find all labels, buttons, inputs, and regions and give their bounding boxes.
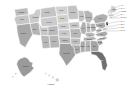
state-label-FL: Fla. (100, 59, 104, 62)
state-label-NE: Neb. (61, 25, 66, 28)
state-label-AK: Alaska (21, 65, 29, 68)
state-label-MT: Mont. (44, 11, 50, 14)
state-label-TX: Texas (63, 52, 70, 55)
state-label-NV: Nev. (33, 28, 38, 31)
state-label-UT: Utah (42, 29, 48, 32)
state-label-AZ: Ariz. (43, 41, 48, 44)
state-label-MO: Mo. (73, 32, 77, 35)
state-label-KY: Ky. (89, 34, 93, 37)
state-label-VA: Va. (100, 33, 104, 36)
state-label-SC: S.C. (97, 41, 102, 44)
state-CT[interactable] (109, 16, 112, 18)
state-label-NY: N.Y. (99, 17, 104, 20)
state-label-MN: Minn. (70, 11, 76, 14)
state-label-SD: S.D. (60, 17, 65, 20)
us-choropleth-map: Wash. Ore. Calif. Nev. Idaho Mont. Wyo. … (0, 0, 135, 93)
state-label-CA: Calif. (21, 32, 27, 35)
state-label-AL: Ala. (86, 45, 90, 48)
state-label-NC: N.C. (100, 37, 105, 40)
state-label-OK: Okla. (62, 39, 68, 42)
state-NJ[interactable] (106, 22, 108, 26)
state-label-ND: N.D. (59, 9, 64, 12)
state-label-LA: La. (75, 48, 79, 51)
state-label-NM: N.M. (52, 40, 57, 43)
state-label-KS: Kan. (62, 32, 67, 35)
state-label-WY: Wyo. (46, 21, 52, 24)
state-label-IL: Ill. (82, 27, 85, 30)
map-canvas: Wash. Ore. Calif. Nev. Idaho Mont. Wyo. … (0, 0, 135, 93)
state-MA[interactable] (108, 14, 113, 16)
state-label-ID: Idaho (32, 16, 39, 19)
callout-label-DC: D.C. (121, 29, 126, 32)
state-label-HI: Hawaii (47, 83, 55, 86)
state-label-PA: Pa. (99, 24, 103, 27)
state-label-GA: Ga. (92, 45, 96, 48)
state-label-AR: Ark. (73, 40, 78, 43)
state-label-IA: Iowa (72, 24, 78, 27)
state-label-WV: W.Va. (96, 29, 103, 32)
state-label-MI: Mich. (86, 16, 92, 19)
state-label-WI: Wis. (79, 15, 84, 18)
state-label-CO: Colo. (49, 29, 55, 32)
state-label-WA: Wash. (18, 11, 25, 14)
state-label-TN: Tenn. (87, 38, 93, 41)
state-label-OR: Ore. (20, 18, 25, 21)
